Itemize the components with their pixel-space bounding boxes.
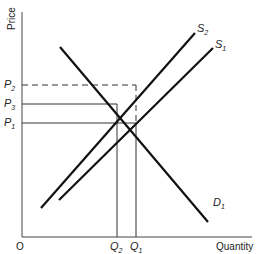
supply-curve-s2 bbox=[41, 33, 195, 208]
label-p1: P1 bbox=[4, 116, 15, 130]
demand-curve-d1 bbox=[60, 47, 208, 222]
x-axis-label: Quantity bbox=[216, 241, 253, 252]
label-s1: S1 bbox=[215, 38, 226, 52]
label-s2: S2 bbox=[197, 22, 208, 36]
label-p2: P2 bbox=[4, 78, 15, 92]
label-q2: Q2 bbox=[110, 240, 123, 254]
label-p3: P3 bbox=[4, 97, 15, 111]
y-axis-label: Price bbox=[6, 7, 17, 30]
origin-label: O bbox=[16, 241, 24, 252]
label-q1: Q1 bbox=[130, 240, 143, 254]
label-d1: D1 bbox=[213, 196, 225, 210]
supply-demand-diagram: Price Quantity O S2 S1 D1 P2 P3 P1 Q2 Q1 bbox=[0, 0, 258, 254]
